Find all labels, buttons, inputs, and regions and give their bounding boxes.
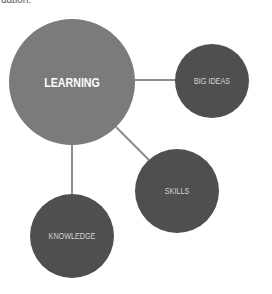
big-ideas-label: BIG IDEAS xyxy=(194,76,230,86)
edge-learning-skills xyxy=(116,127,149,160)
skills-label: SKILLS xyxy=(165,186,189,196)
concept-diagram xyxy=(0,0,272,294)
learning-label: LEARNING xyxy=(44,75,100,90)
knowledge-label: KNOWLEDGE xyxy=(49,231,96,241)
